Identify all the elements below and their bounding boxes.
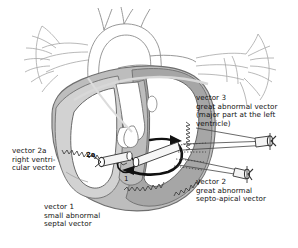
papillary-muscle [147,96,157,112]
label-vector-2a: vector 2a right ventri- cular vector [12,147,56,173]
label-vector-2: vector 2 great abnormal septo-apical vec… [196,178,266,204]
vector-2a-tail-ellipse [127,152,132,160]
label-vector-1: vector 1 small abnormal septal vector [44,203,100,229]
vector-3-cylinder-base [133,157,139,166]
marker-2a: 2a [86,152,96,159]
marker-1: 1 [124,176,128,183]
label-vector-3: vector 3 great abnormal vector (major pa… [196,94,278,128]
